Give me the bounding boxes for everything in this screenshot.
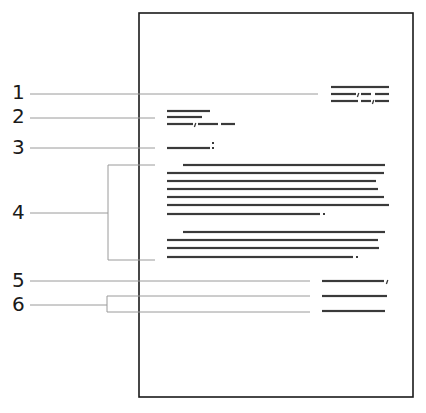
letter-layout-diagram: 1 2 3 4 5 6 [0, 0, 426, 413]
callout-label-3: 3 [12, 137, 25, 157]
callout-label-6: 6 [12, 294, 25, 314]
leader-body [30, 165, 155, 260]
callout-label-1: 1 [12, 82, 25, 102]
callout-label-2: 2 [12, 106, 25, 126]
diagram-canvas [0, 0, 426, 413]
callout-label-4: 4 [12, 202, 25, 222]
callout-label-5: 5 [12, 270, 25, 290]
